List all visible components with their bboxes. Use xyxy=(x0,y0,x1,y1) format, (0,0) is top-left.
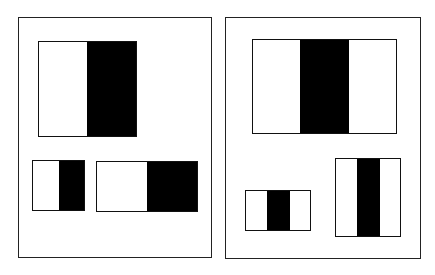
black-region xyxy=(300,40,349,133)
black-region xyxy=(87,42,136,136)
two-rectangle-feature-small xyxy=(32,160,85,211)
two-rectangle-feature-large xyxy=(38,41,137,137)
three-rectangle-feature-tall xyxy=(335,158,401,237)
black-region xyxy=(147,162,197,211)
two-rectangle-feature-wide xyxy=(96,161,198,212)
black-region xyxy=(357,159,380,236)
three-rectangle-feature-small xyxy=(245,190,311,231)
black-region xyxy=(267,191,290,230)
three-rectangle-feature-large xyxy=(252,39,397,134)
black-region xyxy=(59,161,84,210)
